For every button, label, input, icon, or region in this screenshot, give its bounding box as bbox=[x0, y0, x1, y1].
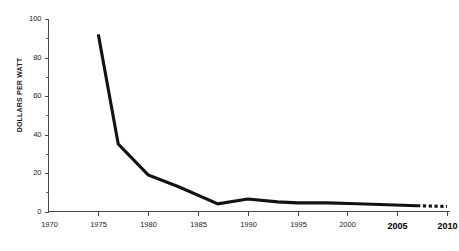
data-series-group bbox=[98, 34, 447, 206]
y-axis-tick-labels: 020406080100 bbox=[29, 14, 42, 216]
x-tick-label: 2005 bbox=[387, 221, 407, 231]
axis-lines bbox=[49, 19, 451, 212]
x-tick-label: 2010 bbox=[437, 221, 457, 231]
y-axis-ticks bbox=[45, 20, 49, 213]
chart-container: 020406080100 197019751980198519901995200… bbox=[0, 0, 459, 251]
x-tick-label: 1985 bbox=[190, 220, 207, 229]
series-line-solar-module-price bbox=[98, 34, 417, 205]
dollars-per-watt-line-chart: 020406080100 197019751980198519901995200… bbox=[0, 0, 459, 251]
y-tick-label: 40 bbox=[33, 130, 41, 139]
y-tick-label: 20 bbox=[33, 168, 41, 177]
x-tick-label: 1995 bbox=[290, 220, 307, 229]
x-tick-label: 1975 bbox=[90, 220, 107, 229]
x-axis-ticks bbox=[99, 212, 448, 216]
x-tick-label: 1970 bbox=[41, 220, 58, 229]
x-axis-tick-labels: 197019751980198519901995200020052010 bbox=[41, 220, 457, 231]
y-tick-label: 0 bbox=[37, 207, 41, 216]
series-line-projected-price bbox=[417, 206, 447, 207]
x-tick-label: 1990 bbox=[240, 220, 257, 229]
x-tick-label: 2000 bbox=[339, 220, 356, 229]
y-tick-label: 80 bbox=[33, 53, 41, 62]
y-tick-label: 60 bbox=[33, 91, 41, 100]
y-tick-label: 100 bbox=[29, 14, 42, 23]
x-tick-label: 1980 bbox=[140, 220, 157, 229]
y-axis-title: DOLLARS PER WATT bbox=[16, 57, 23, 132]
